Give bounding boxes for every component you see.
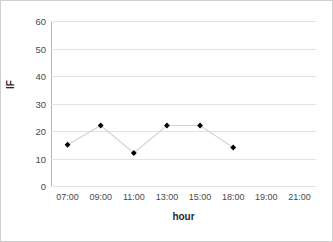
y-axis-label: IF: [5, 80, 16, 89]
y-tick-label: 30: [35, 98, 46, 109]
data-series: [51, 21, 316, 187]
series-line: [68, 126, 234, 154]
chart-container: IF 0102030405060 07:0009:0011:0013:0015:…: [0, 0, 333, 242]
x-tick-label: 11:00: [123, 192, 145, 202]
y-tick-label: 0: [41, 181, 46, 192]
x-tick-label: 19:00: [255, 192, 278, 202]
y-tick-label: 60: [35, 16, 46, 27]
y-tick-label: 50: [35, 43, 46, 54]
y-tick-label: 40: [35, 71, 46, 82]
x-tick-label: 09:00: [89, 192, 112, 202]
x-tick-label: 21:00: [288, 192, 311, 202]
x-axis-label: hour: [51, 211, 316, 222]
x-tick-label: 07:00: [56, 192, 79, 202]
plot-area: 0102030405060 07:0009:0011:0013:0015:001…: [51, 21, 316, 187]
x-tick-label: 15:00: [189, 192, 212, 202]
y-tick-label: 10: [35, 153, 46, 164]
x-tick-label: 18:00: [222, 192, 245, 202]
y-tick-label: 20: [35, 126, 46, 137]
data-point-marker: [65, 142, 71, 148]
x-tick-label: 13:00: [156, 192, 179, 202]
